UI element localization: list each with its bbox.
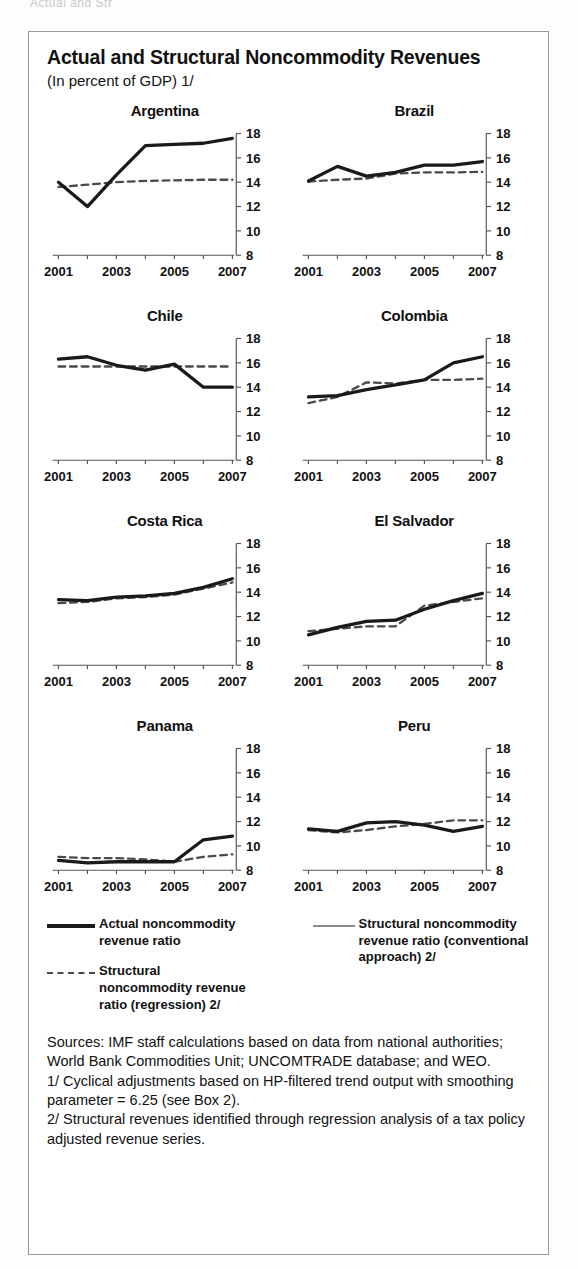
panel-title: Costa Rica [43, 510, 287, 529]
series-solid [308, 162, 482, 181]
series-dashed [58, 180, 232, 187]
figure-notes: Sources: IMF staff calculations based on… [47, 1033, 536, 1149]
svg-text:16: 16 [246, 151, 261, 166]
chart-panel-panama: Panama200120032005200781012141618 [43, 715, 287, 920]
svg-text:2007: 2007 [218, 469, 247, 484]
svg-text:2003: 2003 [351, 469, 380, 484]
svg-text:18: 18 [495, 741, 510, 756]
svg-text:14: 14 [495, 790, 510, 805]
svg-text:2007: 2007 [467, 674, 496, 689]
legend-item: Actual noncommodity revenue ratio [43, 916, 287, 949]
svg-text:2005: 2005 [160, 469, 189, 484]
note-1: 1/ Cyclical adjustments based on HP-filt… [47, 1072, 536, 1111]
svg-text:12: 12 [495, 609, 510, 624]
svg-text:2001: 2001 [44, 674, 73, 689]
clipped-header-text: Actual and Str [30, 0, 112, 10]
panel-plot: 200120032005200781012141618 [293, 119, 537, 291]
chart-panel-costa-rica: Costa Rica200120032005200781012141618 [43, 510, 287, 715]
svg-text:2001: 2001 [293, 264, 322, 279]
svg-text:16: 16 [495, 356, 510, 371]
svg-text:2003: 2003 [102, 879, 131, 894]
panel-title: El Salvador [293, 510, 537, 529]
series-solid [58, 579, 232, 601]
svg-text:8: 8 [246, 863, 253, 878]
svg-text:2001: 2001 [44, 264, 73, 279]
panel-plot: 200120032005200781012141618 [293, 529, 537, 701]
svg-text:2007: 2007 [218, 879, 247, 894]
panel-plot: 200120032005200781012141618 [43, 529, 287, 701]
svg-text:8: 8 [495, 658, 502, 673]
svg-text:12: 12 [246, 199, 261, 214]
panel-title: Peru [293, 715, 537, 734]
svg-text:14: 14 [246, 380, 261, 395]
svg-text:10: 10 [495, 429, 510, 444]
svg-text:12: 12 [246, 404, 261, 419]
svg-text:2005: 2005 [409, 879, 438, 894]
legend-column-right: Structural noncommodity revenue ratio (c… [293, 916, 537, 1027]
series-solid [58, 138, 232, 206]
panel-title: Panama [43, 715, 287, 734]
svg-text:2003: 2003 [351, 879, 380, 894]
panel-title: Argentina [43, 100, 287, 119]
svg-text:2003: 2003 [351, 674, 380, 689]
svg-text:10: 10 [246, 224, 261, 239]
svg-text:12: 12 [246, 814, 261, 829]
legend-column-left: Actual noncommodity revenue ratioStructu… [43, 916, 287, 1027]
legend-item: Structural noncommodity revenue ratio (c… [303, 916, 537, 966]
svg-text:2007: 2007 [467, 264, 496, 279]
svg-text:18: 18 [495, 331, 510, 346]
svg-text:2007: 2007 [467, 879, 496, 894]
chart-panel-peru: Peru200120032005200781012141618 [293, 715, 537, 920]
series-thin [58, 357, 232, 387]
svg-text:10: 10 [495, 224, 510, 239]
svg-text:18: 18 [246, 126, 261, 141]
svg-text:14: 14 [495, 585, 510, 600]
svg-text:2001: 2001 [44, 879, 73, 894]
note-2: 2/ Structural revenues identified throug… [47, 1110, 536, 1149]
svg-text:2007: 2007 [218, 264, 247, 279]
svg-text:16: 16 [495, 766, 510, 781]
series-solid [58, 357, 232, 387]
svg-text:10: 10 [246, 634, 261, 649]
series-solid [308, 357, 482, 397]
svg-text:18: 18 [495, 126, 510, 141]
chart-panel-el-salvador: El Salvador200120032005200781012141618 [293, 510, 537, 715]
series-solid [308, 593, 482, 634]
svg-text:16: 16 [495, 561, 510, 576]
legend-label: Structural noncommodity revenue ratio (c… [359, 916, 537, 966]
svg-text:14: 14 [495, 380, 510, 395]
svg-text:2005: 2005 [160, 879, 189, 894]
svg-text:8: 8 [495, 248, 502, 263]
svg-text:10: 10 [495, 839, 510, 854]
legend-item: Structural noncommodity revenue ratio (r… [43, 963, 287, 1013]
svg-text:2003: 2003 [102, 674, 131, 689]
svg-text:14: 14 [495, 175, 510, 190]
svg-text:2001: 2001 [293, 674, 322, 689]
chart-panel-brazil: Brazil200120032005200781012141618 [293, 100, 537, 305]
svg-text:2001: 2001 [44, 469, 73, 484]
panel-title: Brazil [293, 100, 537, 119]
legend-key-dashed-icon [43, 966, 95, 980]
svg-text:18: 18 [246, 741, 261, 756]
panel-plot: 200120032005200781012141618 [43, 324, 287, 496]
svg-text:10: 10 [246, 839, 261, 854]
svg-text:2007: 2007 [218, 674, 247, 689]
legend: Actual noncommodity revenue ratioStructu… [43, 916, 536, 1027]
panel-plot: 200120032005200781012141618 [43, 734, 287, 906]
svg-text:12: 12 [495, 199, 510, 214]
svg-text:2001: 2001 [293, 879, 322, 894]
svg-text:16: 16 [246, 766, 261, 781]
legend-key-thin-icon [303, 919, 355, 933]
svg-text:12: 12 [495, 814, 510, 829]
svg-text:2005: 2005 [409, 264, 438, 279]
panel-plot: 200120032005200781012141618 [43, 119, 287, 291]
svg-text:2001: 2001 [293, 469, 322, 484]
svg-text:12: 12 [246, 609, 261, 624]
figure-page: Actual and Str Actual and Structural Non… [0, 0, 578, 1269]
svg-text:8: 8 [246, 658, 253, 673]
svg-text:14: 14 [246, 175, 261, 190]
panel-plot: 200120032005200781012141618 [293, 734, 537, 906]
series-thin [58, 138, 232, 206]
svg-text:18: 18 [246, 536, 261, 551]
legend-label: Structural noncommodity revenue ratio (r… [99, 963, 249, 1013]
